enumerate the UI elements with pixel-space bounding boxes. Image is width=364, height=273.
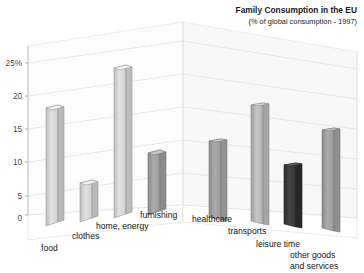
y-tick-label-5: 5 bbox=[17, 192, 22, 201]
category-label-other-goods-line1: other goods bbox=[290, 250, 335, 260]
family-consumption-3d-bar-chart: 25% 20 15 10 5 0 bbox=[0, 0, 364, 273]
bar-transports[interactable] bbox=[251, 103, 269, 225]
category-label-home-energy: home, energy bbox=[96, 221, 149, 231]
bar-clothes[interactable] bbox=[80, 180, 98, 222]
category-label-leisure-time: leisure time bbox=[256, 239, 300, 249]
bar-food[interactable] bbox=[46, 105, 64, 226]
chart-canvas: 25% 20 15 10 5 0 bbox=[0, 0, 364, 273]
y-tick-label-10: 10 bbox=[13, 158, 23, 167]
chart-subtitle: (% of global consumption - 1997) bbox=[249, 17, 357, 26]
y-tick-label-25: 25% bbox=[6, 59, 22, 68]
y-tick-label-20: 20 bbox=[13, 92, 23, 101]
category-label-transports: transports bbox=[228, 226, 266, 236]
category-label-healthcare: healthcare bbox=[192, 214, 232, 224]
bar-leisure-time[interactable] bbox=[284, 163, 302, 228]
category-label-clothes: clothes bbox=[72, 231, 99, 241]
chart-title: Family Consumption in the EU bbox=[236, 5, 357, 15]
category-label-other-goods-line2: and services bbox=[290, 261, 338, 271]
category-label-furnishing: furnishing bbox=[140, 210, 177, 220]
y-tick-label-0: 0 bbox=[17, 214, 22, 223]
bar-other-goods-and-services[interactable] bbox=[322, 128, 340, 232]
bar-healthcare[interactable] bbox=[209, 139, 227, 221]
y-tick-label-15: 15 bbox=[13, 125, 23, 134]
category-label-food: food bbox=[41, 243, 58, 253]
bar-furnishing[interactable] bbox=[148, 150, 166, 215]
bar-home-energy[interactable] bbox=[114, 65, 132, 218]
